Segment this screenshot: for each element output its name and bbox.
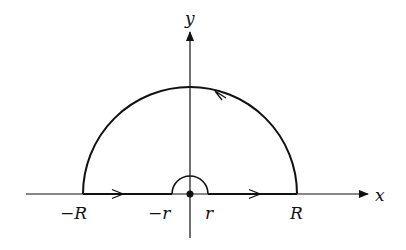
y-axis-label: y [184,8,195,28]
pos-r-label: r [205,203,214,223]
contour-diagram: y x −R −r r R [0,0,406,250]
neg-r-label: −r [148,203,171,223]
origin-point [187,191,194,198]
pos-R-label: R [289,203,303,223]
neg-R-label: −R [60,203,87,223]
x-axis-label: x [375,185,385,205]
